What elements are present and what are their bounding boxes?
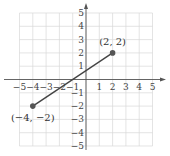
coordinate-plane: −5−4−3−2−11234554321−1−2−3−4−5 (2, 2)(−4… [0,0,170,156]
x-tick-label: −5 [13,82,27,92]
x-axis-arrow-icon [160,78,166,82]
x-tick-label: 2 [110,82,116,92]
y-tick-label: 2 [78,48,84,58]
y-tick-label: 5 [78,8,84,18]
x-tick-label: 4 [136,82,142,92]
axes [4,3,166,150]
x-tick-label: 3 [123,82,129,92]
y-tick-label: −3 [71,114,85,124]
x-tick-label: 5 [150,82,156,92]
x-tick-label: −2 [53,82,66,92]
x-tick-label: −3 [39,82,53,92]
y-tick-label: −2 [71,101,84,111]
y-tick-label: 1 [78,61,84,71]
x-tick-label: −4 [26,82,40,92]
point-marker [110,50,116,56]
y-tick-label: 4 [78,21,84,31]
point-label: (−4, −2) [11,112,55,123]
y-tick-label: −5 [71,141,85,151]
y-tick-label: 3 [78,35,84,45]
y-tick-label: −4 [71,128,85,138]
point-marker [30,103,36,109]
y-axis-arrow-icon [84,3,88,9]
point-label: (2, 2) [99,36,126,47]
x-tick-label: 1 [96,82,102,92]
y-tick-label: −1 [71,88,84,98]
